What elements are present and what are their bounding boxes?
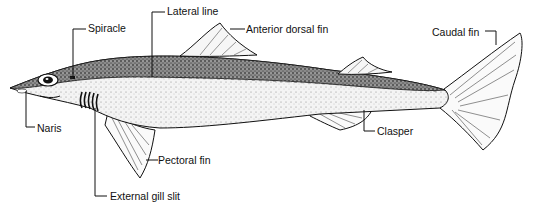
label-lateral-line: Lateral line [167, 5, 218, 17]
label-clasper: Clasper [377, 125, 413, 137]
label-external-gill-slit: External gill slit [110, 190, 180, 202]
label-caudal-fin: Caudal fin [432, 26, 479, 38]
spiracle-shape [70, 76, 75, 79]
label-naris: Naris [37, 122, 62, 134]
posterior-dorsal-fin-shape [338, 57, 392, 74]
caudal-fin-shape [440, 33, 522, 150]
shark-anatomy-diagram: Lateral line Spiracle Anterior dorsal fi… [0, 0, 533, 213]
label-spiracle: Spiracle [88, 22, 126, 34]
eye [38, 74, 58, 86]
label-pectoral-fin: Pectoral fin [158, 154, 211, 166]
label-anterior-dorsal-fin: Anterior dorsal fin [246, 23, 328, 35]
